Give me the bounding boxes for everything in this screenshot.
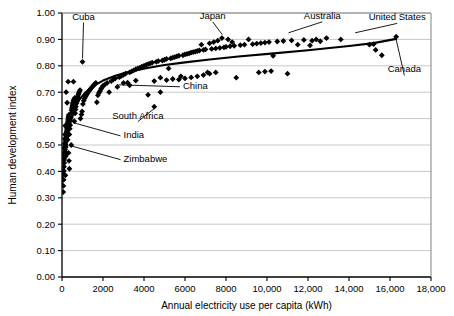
- x-axis-title: Annual electricity use per capita (kWh): [161, 300, 332, 311]
- annotation-label-south-africa: South Africa: [112, 110, 164, 121]
- y-tick-label: 0.20: [37, 219, 56, 230]
- x-tick-label: 6000: [174, 283, 195, 294]
- y-tick-label: 0.60: [37, 113, 56, 124]
- annotation-label-japan: Japan: [200, 10, 226, 21]
- annotation-label-australia: Australia: [304, 10, 342, 21]
- x-tick-label: 4000: [133, 283, 154, 294]
- x-tick-label: 18,000: [416, 283, 445, 294]
- x-tick-label: 14,000: [334, 283, 363, 294]
- x-tick-label: 12,000: [293, 283, 322, 294]
- x-axis: 0200040006000800010,00012,00014,00016,00…: [59, 277, 445, 294]
- x-tick-label: 0: [59, 283, 64, 294]
- x-tick-label: 8000: [215, 283, 236, 294]
- annotation-label-india: India: [124, 129, 145, 140]
- annotation-label-china: China: [183, 80, 209, 91]
- y-tick-label: 0.10: [37, 245, 56, 256]
- y-axis-title: Human development index: [7, 86, 18, 205]
- x-tick-label: 16,000: [375, 283, 404, 294]
- y-tick-label: 0.70: [37, 87, 56, 98]
- y-tick-label: 1.00: [37, 7, 56, 18]
- y-tick-label: 0.00: [37, 271, 56, 282]
- annotation-label-united-states: United States: [369, 11, 426, 22]
- x-tick-label: 2000: [92, 283, 113, 294]
- y-tick-label: 0.50: [37, 139, 56, 150]
- scatter-chart: 0.000.100.200.300.400.500.600.700.800.90…: [0, 0, 454, 316]
- y-tick-label: 0.90: [37, 34, 56, 45]
- annotation-label-canada: Canada: [388, 63, 422, 74]
- x-tick-label: 10,000: [252, 283, 281, 294]
- annotation-label-zimbabwe: Zimbabwe: [124, 153, 168, 164]
- annotation-label-cuba: Cuba: [72, 11, 95, 22]
- y-tick-label: 0.30: [37, 192, 56, 203]
- y-tick-label: 0.80: [37, 60, 56, 71]
- y-tick-label: 0.40: [37, 166, 56, 177]
- chart-container: 0.000.100.200.300.400.500.600.700.800.90…: [0, 0, 454, 316]
- y-axis: 0.000.100.200.300.400.500.600.700.800.90…: [37, 7, 63, 282]
